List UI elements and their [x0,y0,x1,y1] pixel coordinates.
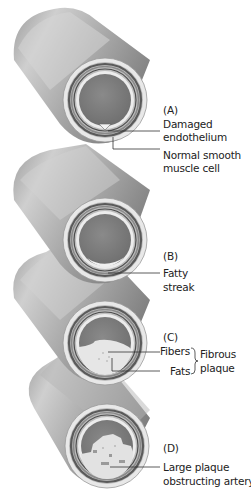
callout-damaged-endothelium-line1: Damaged [163,118,213,131]
fibrous-plaque-line2: plaque [200,362,235,375]
artery-illustration [0,0,251,492]
cross-section-d [65,404,149,488]
stage-label-a: (A) [163,104,178,117]
callout-fatty-streak-line2: streak [163,281,194,294]
stage-label-b: (B) [163,250,178,263]
callout-fibers: Fibers [160,345,190,358]
stage-label-c: (C) [163,331,178,344]
atherosclerosis-diagram: (A) Damaged endothelium Normal smooth mu… [0,0,251,492]
fibrous-plaque-line1: Fibrous [200,348,236,361]
callout-fats: Fats [170,365,190,378]
callout-normal-smooth-muscle-line1: Normal smooth [163,149,241,162]
cross-section-b [63,198,147,282]
callout-damaged-endothelium-line2: endothelium [163,131,227,144]
cross-section-a [63,58,147,142]
stage-label-d: (D) [163,442,179,455]
callout-fatty-streak-line1: Fatty [163,267,188,280]
cross-section-c [63,301,147,385]
brace-icon [191,348,198,374]
callout-large-plaque-line1: Large plaque [163,461,229,474]
callout-large-plaque-line2: obstructing artery [163,475,251,488]
callout-normal-smooth-muscle-line2: muscle cell [163,162,220,175]
